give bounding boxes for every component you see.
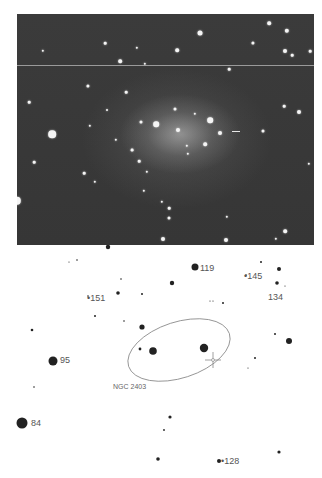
photo-star xyxy=(176,128,180,132)
chart-star xyxy=(277,450,280,453)
photo-star xyxy=(224,238,228,242)
galaxy-glow xyxy=(17,14,314,245)
magnitude-label: 84 xyxy=(31,418,41,428)
chart-star xyxy=(49,357,58,366)
nucleus-crosshair-icon xyxy=(205,352,221,368)
chart-star xyxy=(168,415,171,418)
chart-star xyxy=(139,348,142,351)
chart-star xyxy=(192,264,199,271)
photo-star xyxy=(33,161,36,164)
photo-star xyxy=(153,121,159,127)
chart-star xyxy=(247,367,248,368)
chart-star xyxy=(254,357,256,359)
photo-star xyxy=(161,237,165,241)
galaxy-photograph xyxy=(17,14,314,245)
photo-star xyxy=(140,121,143,124)
scan-line-artifact xyxy=(17,65,314,66)
chart-star xyxy=(200,344,208,352)
chart-star xyxy=(156,457,160,461)
photo-star xyxy=(118,59,122,63)
chart-star xyxy=(260,261,262,263)
photo-star xyxy=(106,109,108,111)
magnitude-label: 95 xyxy=(60,355,70,365)
photo-star xyxy=(262,130,265,133)
chart-star xyxy=(212,300,213,301)
photo-star xyxy=(267,21,271,25)
chart-star xyxy=(141,293,143,295)
finder-chart-graphic xyxy=(0,245,322,478)
photo-star xyxy=(297,110,301,114)
chart-star xyxy=(123,320,125,322)
magnitude-label: •145 xyxy=(244,271,262,281)
chart-star xyxy=(163,429,165,431)
magnitude-label: 134 xyxy=(268,292,283,302)
chart-star xyxy=(275,281,279,285)
chart-star xyxy=(76,259,78,261)
photo-star xyxy=(131,149,134,152)
chart-star xyxy=(33,386,35,388)
chart-star xyxy=(139,324,144,329)
satellite-streak xyxy=(232,131,240,132)
photo-star xyxy=(168,207,171,210)
chart-star xyxy=(222,302,224,304)
photo-star xyxy=(83,172,86,175)
galaxy-outline-ellipse xyxy=(120,307,238,393)
photo-star xyxy=(168,217,171,220)
photo-star xyxy=(291,54,294,57)
chart-star xyxy=(277,267,281,271)
magnitude-label: •151 xyxy=(87,293,105,303)
photo-star xyxy=(104,42,107,45)
photo-star xyxy=(28,101,31,104)
chart-star xyxy=(120,278,122,280)
chart-star xyxy=(286,338,292,344)
photo-star xyxy=(138,160,141,163)
finder-chart: 119•145134•15195NGC 240384•128 xyxy=(0,245,322,478)
photo-star xyxy=(228,68,231,71)
chart-star xyxy=(170,281,174,285)
photo-star xyxy=(309,50,312,53)
chart-star xyxy=(209,300,210,301)
photo-star xyxy=(198,31,203,36)
photo-star xyxy=(207,117,213,123)
galaxy-name-label: NGC 2403 xyxy=(113,382,146,392)
chart-star xyxy=(94,315,96,317)
photo-star xyxy=(125,91,128,94)
chart-star xyxy=(68,261,69,262)
chart-star xyxy=(17,418,28,429)
photo-star xyxy=(218,131,222,135)
magnitude-label: •128 xyxy=(221,456,239,466)
photo-star xyxy=(283,105,286,108)
photo-star xyxy=(283,49,287,53)
photo-star xyxy=(283,229,287,233)
photo-star xyxy=(203,142,207,146)
magnitude-label: 119 xyxy=(200,263,214,273)
chart-star xyxy=(274,333,276,335)
chart-star xyxy=(106,245,110,249)
chart-star xyxy=(116,291,120,295)
photo-star xyxy=(174,108,177,111)
chart-star xyxy=(284,285,285,286)
photo-star xyxy=(175,48,179,52)
chart-star xyxy=(149,347,157,355)
photo-star xyxy=(48,130,56,138)
chart-star xyxy=(31,329,34,332)
